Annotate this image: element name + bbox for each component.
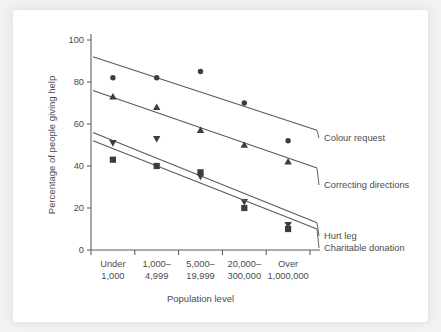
x-axis-category-label: 1,000,000 — [267, 271, 308, 281]
x-axis-title: Population level — [167, 293, 234, 304]
x-axis-category-label: 4,999 — [145, 271, 168, 281]
series-label-colour-request: Colour request — [324, 133, 385, 143]
data-point-circle — [285, 138, 290, 143]
x-axis-category-label: 5,000– — [186, 259, 215, 269]
data-point-triangle-up — [197, 127, 204, 134]
x-axis-category-label: 20,000– — [227, 259, 261, 269]
data-point-square — [241, 205, 247, 211]
series-leader-line — [317, 168, 319, 185]
data-point-circle — [110, 75, 115, 80]
y-axis-title: Percentage of people giving help — [46, 76, 57, 214]
y-axis-tick-label: 20 — [74, 203, 84, 213]
y-axis-tick-label: 40 — [74, 161, 84, 171]
y-axis-tick-label: 80 — [74, 77, 84, 87]
y-axis-tick-label: 0 — [79, 245, 84, 255]
trend-line-charitable-donation — [93, 141, 317, 229]
data-point-square — [197, 169, 203, 175]
trend-line-colour-request — [93, 57, 317, 131]
data-point-square — [110, 157, 116, 163]
series-leader-line — [317, 130, 319, 138]
x-axis-category-label: Under — [100, 259, 125, 269]
data-point-square — [154, 163, 160, 169]
x-axis-category-label: 1,000– — [142, 259, 171, 269]
data-point-square — [285, 226, 291, 232]
screenshot-root: 020406080100Under1,0001,000–4,9995,000–1… — [0, 0, 441, 332]
x-axis-category-label: 19,999 — [186, 271, 214, 281]
series-label-charitable-donation: Charitable donation — [324, 243, 405, 253]
series-label-hurt-leg: Hurt leg — [324, 231, 357, 241]
x-axis-category-label: 300,000 — [227, 271, 261, 281]
x-axis-category-label: 1,000 — [101, 271, 124, 281]
data-point-circle — [198, 69, 203, 74]
chart-figure: 020406080100Under1,0001,000–4,9995,000–1… — [13, 10, 428, 322]
data-point-triangle-up — [153, 103, 160, 110]
data-point-circle — [242, 100, 247, 105]
figure-panel: 020406080100Under1,0001,000–4,9995,000–1… — [13, 10, 428, 322]
data-point-circle — [154, 75, 159, 80]
series-label-correcting-directions: Correcting directions — [324, 180, 410, 190]
y-axis-tick-label: 60 — [74, 119, 84, 129]
trend-line-correcting-directions — [93, 90, 317, 168]
data-point-triangle-down — [153, 136, 160, 143]
chart-svg: 020406080100Under1,0001,000–4,9995,000–1… — [13, 10, 428, 322]
y-axis-tick-label: 100 — [68, 35, 84, 45]
data-point-triangle-down — [109, 140, 116, 147]
trend-line-hurt-leg — [93, 132, 317, 222]
x-axis-category-label: Over — [278, 259, 298, 269]
